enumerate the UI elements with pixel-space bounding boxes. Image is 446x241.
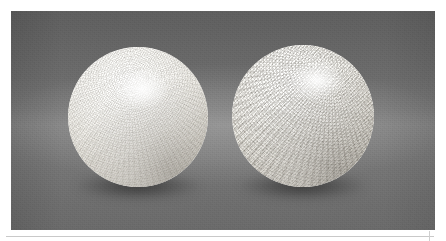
sphere-right-rim-shading: [232, 45, 374, 187]
figure-image-plate: [11, 11, 435, 230]
caption-separator-rule: [6, 236, 434, 237]
sphere-left-stage: [57, 36, 221, 211]
sphere-left-rim-shading: [68, 47, 208, 187]
sphere-right: [232, 45, 374, 187]
caption-rule-end-tick: [429, 231, 430, 241]
sphere-right-stage: [221, 34, 387, 212]
page-root: [0, 0, 446, 241]
sphere-left: [68, 47, 208, 187]
